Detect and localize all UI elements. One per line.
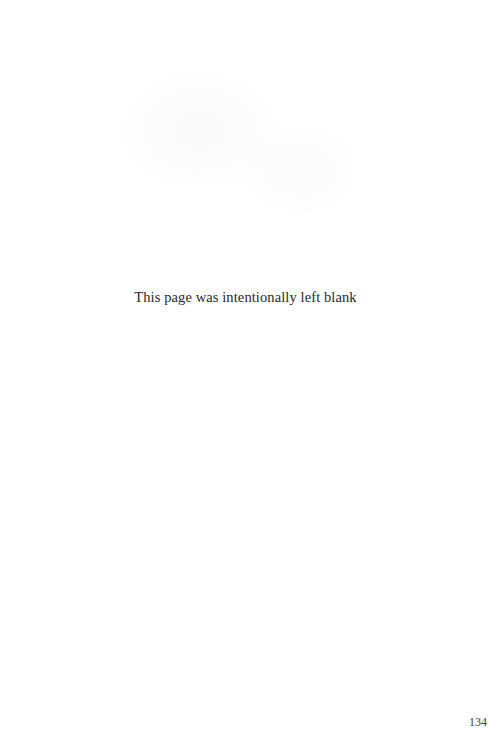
page-number: 134: [469, 716, 487, 728]
blank-page-notice: This page was intentionally left blank: [0, 289, 491, 306]
